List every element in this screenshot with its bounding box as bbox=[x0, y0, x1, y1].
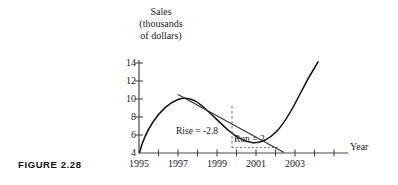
chart-canvas bbox=[0, 0, 398, 185]
figure-2-28: FIGURE 2.28 Sales (thousands of dollars)… bbox=[0, 0, 398, 185]
secant-line bbox=[178, 95, 284, 153]
sales-curve bbox=[140, 62, 319, 153]
